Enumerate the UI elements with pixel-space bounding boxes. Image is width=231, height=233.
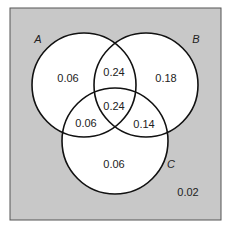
set-a-label: A bbox=[33, 33, 41, 45]
region-a-and-b: 0.24 bbox=[103, 66, 124, 78]
region-a-and-c: 0.06 bbox=[75, 117, 96, 129]
set-c-label: C bbox=[167, 158, 175, 170]
region-b-and-c: 0.14 bbox=[133, 118, 154, 130]
region-b-only: 0.18 bbox=[155, 72, 176, 84]
set-b-label: B bbox=[192, 33, 199, 45]
region-a-b-c: 0.24 bbox=[103, 100, 124, 112]
venn-diagram: A B C 0.06 0.24 0.18 0.24 0.06 0.14 0.06… bbox=[0, 0, 231, 233]
region-outside: 0.02 bbox=[177, 186, 198, 198]
region-c-only: 0.06 bbox=[103, 158, 124, 170]
region-a-only: 0.06 bbox=[57, 72, 78, 84]
